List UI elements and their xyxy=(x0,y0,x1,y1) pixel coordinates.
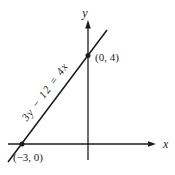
x-axis-label: x xyxy=(162,137,169,151)
y-axis-label: y xyxy=(81,6,88,20)
graph-figure: y x 3y − 12 = 4x (0, 4) (−3, 0) xyxy=(0,0,175,175)
y-axis-arrowhead-icon xyxy=(85,20,91,29)
y-intercept-label: (0, 4) xyxy=(95,51,119,64)
x-intercept-point xyxy=(20,142,25,147)
x-intercept-label: (−3, 0) xyxy=(13,151,43,164)
y-intercept-point xyxy=(86,53,91,58)
x-axis-arrowhead-icon xyxy=(148,141,156,147)
coordinate-plane: y x 3y − 12 = 4x (0, 4) (−3, 0) xyxy=(0,0,175,175)
